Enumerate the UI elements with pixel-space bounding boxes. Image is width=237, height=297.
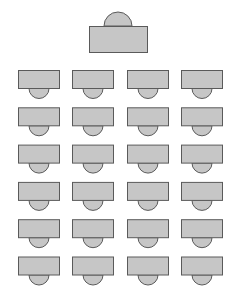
student-desks-grid [19, 71, 223, 286]
student-desk [73, 257, 114, 275]
student-desk [73, 182, 114, 200]
student-desk [128, 220, 169, 238]
student-station [73, 108, 114, 136]
student-station [128, 108, 169, 136]
student-chair [83, 126, 103, 136]
student-chair [29, 163, 49, 173]
student-desk [73, 220, 114, 238]
student-chair [192, 89, 212, 99]
student-chair [138, 200, 158, 210]
student-chair [192, 200, 212, 210]
student-chair [192, 126, 212, 136]
student-desk [128, 71, 169, 89]
student-station [19, 220, 60, 248]
student-chair [83, 275, 103, 285]
student-desk [182, 257, 223, 275]
student-chair [83, 238, 103, 248]
student-chair [192, 238, 212, 248]
student-chair [138, 126, 158, 136]
student-station [182, 182, 223, 210]
student-chair [29, 89, 49, 99]
student-chair [29, 275, 49, 285]
student-chair [138, 275, 158, 285]
student-station [19, 257, 60, 285]
student-station [128, 145, 169, 173]
student-station [19, 145, 60, 173]
student-station [182, 220, 223, 248]
student-desk [182, 108, 223, 126]
student-station [73, 145, 114, 173]
student-desk [182, 220, 223, 238]
student-station [73, 71, 114, 99]
student-chair [138, 163, 158, 173]
student-chair [29, 126, 49, 136]
student-chair [138, 89, 158, 99]
student-station [73, 257, 114, 285]
student-desk [182, 182, 223, 200]
student-station [182, 108, 223, 136]
student-desk [19, 182, 60, 200]
student-desk [73, 145, 114, 163]
student-chair [138, 238, 158, 248]
student-station [128, 71, 169, 99]
student-desk [182, 145, 223, 163]
student-station [73, 182, 114, 210]
student-station [73, 220, 114, 248]
student-desk [128, 182, 169, 200]
student-chair [192, 163, 212, 173]
classroom-seating-diagram [0, 0, 237, 297]
teacher-desk [90, 27, 148, 53]
student-station [128, 182, 169, 210]
student-station [128, 257, 169, 285]
student-chair [83, 89, 103, 99]
student-desk [19, 71, 60, 89]
student-desk [73, 71, 114, 89]
student-desk [128, 108, 169, 126]
student-desk [19, 108, 60, 126]
student-station [19, 182, 60, 210]
student-desk [182, 71, 223, 89]
student-desk [19, 257, 60, 275]
student-chair [83, 163, 103, 173]
student-chair [29, 238, 49, 248]
student-station [19, 108, 60, 136]
student-desk [19, 220, 60, 238]
student-station [182, 71, 223, 99]
student-station [19, 71, 60, 99]
student-chair [192, 275, 212, 285]
student-desk [73, 108, 114, 126]
student-desk [128, 257, 169, 275]
student-station [128, 220, 169, 248]
student-desk [128, 145, 169, 163]
student-chair [29, 200, 49, 210]
student-station [182, 145, 223, 173]
student-desk [19, 145, 60, 163]
teacher-station [90, 12, 148, 53]
student-chair [83, 200, 103, 210]
student-station [182, 257, 223, 285]
teacher-chair [104, 12, 132, 26]
